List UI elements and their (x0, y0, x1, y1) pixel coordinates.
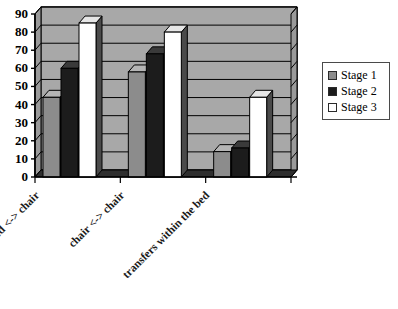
bar-2-series-3 (164, 25, 187, 177)
legend-label-stage-2: Stage 2 (341, 85, 377, 97)
x-axis-category-label: chair <-> chair (66, 189, 127, 250)
y-axis-tick-label: 80 (15, 24, 28, 39)
plot-area: 0102030405060708090bed <-> chairchair <-… (0, 0, 398, 309)
y-axis-tick-label: 60 (15, 60, 28, 75)
legend-label-stage-1: Stage 1 (341, 69, 377, 81)
legend-swatch-stage-2 (328, 87, 337, 96)
bar-chart-svg: 0102030405060708090bed <-> chairchair <-… (0, 0, 398, 309)
y-axis-tick-label: 40 (15, 97, 28, 112)
y-axis-tick-label: 20 (15, 133, 28, 148)
legend-label-stage-3: Stage 3 (341, 101, 377, 113)
legend-item-stage-1: Stage 1 (328, 67, 384, 83)
legend-item-stage-2: Stage 2 (328, 83, 384, 99)
bar-1-series-3 (79, 16, 102, 177)
x-axis-category-label: bed <-> chair (0, 189, 41, 244)
y-axis-tick-label: 50 (15, 78, 28, 93)
legend-swatch-stage-3 (328, 103, 337, 112)
x-axis-category-label: transfers within the bed (120, 189, 212, 281)
y-axis-tick-label: 0 (22, 169, 29, 184)
chart-figure: 0102030405060708090bed <-> chairchair <-… (0, 0, 398, 309)
bar-3-series-3 (250, 90, 273, 177)
y-axis-tick-label: 10 (15, 151, 28, 166)
legend-swatch-stage-1 (328, 71, 337, 80)
chart-legend: Stage 1 Stage 2 Stage 3 (322, 62, 390, 120)
y-axis-tick-label: 90 (15, 6, 28, 21)
y-axis-tick-label: 30 (15, 115, 28, 130)
y-axis-tick-label: 70 (15, 42, 28, 57)
legend-item-stage-3: Stage 3 (328, 99, 384, 115)
